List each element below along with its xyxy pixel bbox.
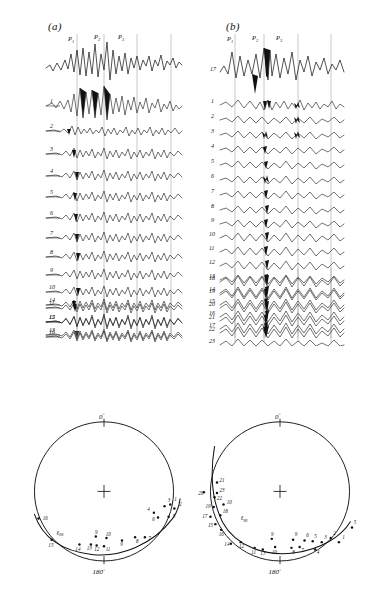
point-label: 2 xyxy=(179,501,182,507)
record-section-a-cont: 14 15 16 xyxy=(44,292,184,342)
point-label: 11 xyxy=(106,546,111,552)
point-label: 14 xyxy=(224,541,230,547)
data-point xyxy=(105,537,107,539)
center-cross-icon xyxy=(97,485,110,498)
trace-row: 5 xyxy=(46,189,182,202)
trace-number: 8 xyxy=(50,249,53,255)
data-point xyxy=(50,538,52,540)
point-label: 1 xyxy=(342,534,345,540)
trace-number: 11 xyxy=(209,245,215,251)
girdle-label: ℓ90 xyxy=(241,515,248,523)
figure-root: (a) P1 P2 P3 1 xyxy=(0,0,371,615)
trace-sum xyxy=(46,42,182,80)
trace-number: 7 xyxy=(211,188,215,194)
point-label: 9 xyxy=(95,529,98,535)
point-label: 1 xyxy=(174,496,177,502)
trace-row: 1 xyxy=(211,98,344,110)
trace-number: 3 xyxy=(210,128,214,134)
trace-number: 18 xyxy=(209,275,215,281)
data-point xyxy=(271,538,273,540)
data-point xyxy=(292,538,294,540)
point-label: 6 xyxy=(152,516,155,522)
trace-row: 20 xyxy=(209,301,344,313)
point-label: 13 xyxy=(260,550,266,556)
trace-number: 4 xyxy=(50,168,53,174)
trace-number: 5 xyxy=(211,158,214,164)
trace-row: 8 xyxy=(46,249,182,262)
trace-row: 3 xyxy=(46,146,182,159)
phase-label-p3: P3 xyxy=(275,34,283,43)
trace-number: 1 xyxy=(211,98,214,104)
center-cross-icon xyxy=(273,485,286,498)
trace-number: 5 xyxy=(50,189,53,195)
data-point xyxy=(173,507,175,509)
stereonet-left: 0° 180° ℓ90 1 2 3 4 5 6 7 8 9 10 11 12 1… xyxy=(14,388,194,603)
point-label: 5 xyxy=(354,519,357,525)
trace-number: 6 xyxy=(50,210,53,216)
point-label: 23 xyxy=(219,487,225,493)
point-label: 12 xyxy=(94,546,100,552)
data-point xyxy=(321,541,323,543)
trace-number: 9 xyxy=(211,217,214,223)
point-label: 15 xyxy=(208,522,214,528)
data-point xyxy=(213,496,215,498)
data-point xyxy=(303,539,305,541)
trace-row: 23 xyxy=(209,338,344,346)
data-point xyxy=(312,540,314,542)
point-label: 15 xyxy=(48,542,54,548)
point-label: 16 xyxy=(219,531,225,537)
timing-lines-a-cont xyxy=(77,292,171,338)
data-point xyxy=(157,516,159,518)
point-label: 17 xyxy=(202,513,208,519)
point-label: 19 xyxy=(206,503,212,509)
phase-label-p1: P1 xyxy=(226,35,233,44)
trace-number: 6 xyxy=(211,173,214,179)
trace-number: 8 xyxy=(211,203,214,209)
data-point xyxy=(330,537,332,539)
stereonet-right: 0° 180° ℓ90 1 2 3 4 5 5 6 7 8 9 9 10 11 … xyxy=(190,388,370,603)
data-point xyxy=(163,505,165,507)
point-label: 6 xyxy=(306,532,309,538)
trace-number: 21 xyxy=(209,314,215,320)
trace-row: 1 xyxy=(46,86,182,120)
phase-label-p1: P1 xyxy=(67,35,74,44)
point-label: 8 xyxy=(136,538,139,544)
data-point xyxy=(351,526,353,528)
trace-row: 2 xyxy=(211,113,344,124)
trace-row: 14 xyxy=(46,297,182,310)
data-point xyxy=(214,523,216,525)
point-label: 16 xyxy=(43,515,49,521)
stereonet-right-svg: 0° 180° ℓ90 1 2 3 4 5 5 6 7 8 9 9 10 11 … xyxy=(190,388,370,603)
trace-row: 11 xyxy=(209,245,344,256)
record-section-b-cont-svg: 18 19 20 21 22 xyxy=(208,268,348,346)
timing-lines-b-cont xyxy=(235,268,331,342)
data-point xyxy=(213,506,215,508)
trace-row: 19 xyxy=(209,288,344,300)
point-label: 13 xyxy=(87,545,93,551)
data-point xyxy=(153,511,155,513)
point-label: 21 xyxy=(219,477,224,483)
data-point xyxy=(167,516,169,518)
trace-row: 21 xyxy=(209,314,344,326)
record-section-b-cont: 18 19 20 21 22 xyxy=(208,268,348,346)
point-label: 10 xyxy=(227,499,233,505)
point-label: 14 xyxy=(75,546,81,552)
trace-number: 12 xyxy=(209,259,215,265)
data-point xyxy=(144,536,146,538)
data-point xyxy=(37,517,39,519)
trace-number: 2 xyxy=(50,123,53,129)
point-label: 4 xyxy=(317,549,320,555)
stereonet-left-points: 1 2 3 4 5 6 7 8 9 10 11 12 13 14 15 16 9 xyxy=(37,496,182,552)
trace-row: 4 xyxy=(211,143,344,154)
trace-row: 7 xyxy=(46,230,182,243)
trace-number: 22 xyxy=(209,326,215,332)
trace-row: 8 xyxy=(211,203,344,214)
point-label: 9 xyxy=(120,541,123,547)
trace-number: 15 xyxy=(49,314,55,320)
data-point xyxy=(216,492,218,494)
trace-row: 2 xyxy=(46,123,182,136)
point-label: 10 xyxy=(106,531,112,537)
trace-number: 16 xyxy=(49,329,55,335)
trace-number: 10 xyxy=(209,231,215,237)
trace-row: 3 xyxy=(210,128,344,139)
